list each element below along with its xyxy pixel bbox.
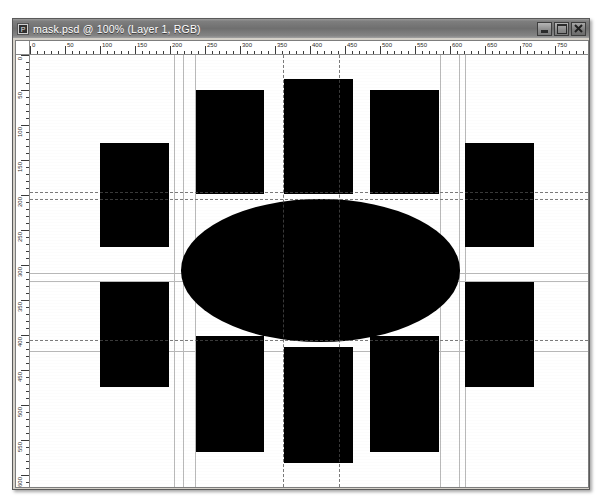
ruler-tick <box>26 419 29 420</box>
rect-left-upper[interactable] <box>100 143 169 248</box>
ruler-label-h: 550 <box>417 42 427 48</box>
ruler-tick <box>583 51 584 54</box>
minimize-icon <box>541 30 548 33</box>
ruler-tick <box>21 300 29 301</box>
ruler-label-h: 500 <box>382 42 392 48</box>
screenshot-root: P mask.psd @ 100% (Layer 1, RGB) <box>0 0 601 504</box>
svg-text:P: P <box>21 26 26 33</box>
ruler-tick <box>310 46 311 54</box>
ruler-tick <box>527 51 528 54</box>
ruler-tick <box>26 363 29 364</box>
rect-right-lower[interactable] <box>465 282 534 387</box>
rect-midleft-top[interactable] <box>196 90 265 195</box>
ruler-label-h: 400 <box>312 42 322 48</box>
ruler-tick <box>303 51 304 54</box>
ruler-tick <box>26 237 29 238</box>
ruler-tick <box>142 51 143 54</box>
ruler-tick <box>562 51 563 54</box>
ruler-label-h: 300 <box>242 42 252 48</box>
ruler-tick <box>170 46 171 54</box>
ruler-tick <box>26 307 29 308</box>
ruler-tick <box>26 293 29 294</box>
ruler-tick <box>21 335 29 336</box>
ruler-tick <box>26 153 29 154</box>
guide-v-8[interactable] <box>465 55 467 487</box>
maximize-button[interactable] <box>554 22 569 36</box>
ruler-label-h: 700 <box>522 42 532 48</box>
ruler-tick <box>26 216 29 217</box>
ruler-label-h: 150 <box>137 42 147 48</box>
ruler-tick <box>26 356 29 357</box>
ruler-tick <box>576 51 577 54</box>
ruler-tick <box>26 118 29 119</box>
minimize-button[interactable] <box>537 22 552 36</box>
rect-midright-bot[interactable] <box>370 336 439 453</box>
ruler-tick <box>359 51 360 54</box>
rect-right-upper[interactable] <box>465 143 534 248</box>
ruler-tick <box>499 51 500 54</box>
ruler-label-h: 100 <box>102 42 112 48</box>
ruler-tick <box>26 139 29 140</box>
ruler-tick <box>21 440 29 441</box>
ruler-tick <box>58 51 59 54</box>
rect-midleft-bot[interactable] <box>196 336 265 453</box>
close-button[interactable] <box>571 22 586 36</box>
guide-v-1[interactable] <box>174 55 176 487</box>
ruler-tick <box>21 160 29 161</box>
ruler-tick <box>26 244 29 245</box>
ruler-tick <box>26 468 29 469</box>
ruler-tick <box>478 51 479 54</box>
ruler-tick <box>21 230 29 231</box>
rect-left-lower[interactable] <box>100 282 169 387</box>
horizontal-ruler[interactable]: 0501001502002503003504004505005506006507… <box>30 41 588 55</box>
ruler-tick <box>338 51 339 54</box>
ruler-label-v: 50 <box>17 92 23 99</box>
ruler-tick <box>26 286 29 287</box>
ruler-tick <box>401 51 402 54</box>
ruler-tick <box>275 46 276 54</box>
canvas-viewport[interactable] <box>30 55 588 487</box>
ruler-tick <box>100 46 101 54</box>
rect-center-top[interactable] <box>284 79 353 194</box>
ruler-tick <box>555 46 556 54</box>
ruler-tick <box>156 51 157 54</box>
ruler-tick <box>26 377 29 378</box>
ruler-tick <box>26 181 29 182</box>
ruler-tick <box>26 202 29 203</box>
ruler-tick <box>149 51 150 54</box>
ruler-tick <box>184 51 185 54</box>
ruler-tick <box>26 328 29 329</box>
ruler-tick <box>373 51 374 54</box>
rect-center-bot[interactable] <box>284 347 353 464</box>
maximize-icon <box>557 24 567 34</box>
ruler-tick <box>26 426 29 427</box>
ruler-label-v: 350 <box>17 302 23 312</box>
image-canvas[interactable] <box>30 55 588 487</box>
ruler-tick <box>289 51 290 54</box>
ruler-tick <box>51 51 52 54</box>
ruler-tick <box>26 132 29 133</box>
photoshop-document-window[interactable]: P mask.psd @ 100% (Layer 1, RGB) <box>12 18 590 490</box>
rect-midright-top[interactable] <box>370 90 439 195</box>
ruler-tick <box>415 46 416 54</box>
ruler-tick <box>26 412 29 413</box>
ruler-tick <box>26 251 29 252</box>
ruler-tick <box>114 51 115 54</box>
ruler-tick <box>44 51 45 54</box>
ruler-tick <box>254 51 255 54</box>
ruler-tick <box>93 51 94 54</box>
ruler-tick <box>429 51 430 54</box>
ruler-tick <box>26 433 29 434</box>
ruler-tick <box>240 46 241 54</box>
center-ellipse[interactable] <box>181 199 460 342</box>
window-titlebar[interactable]: P mask.psd @ 100% (Layer 1, RGB) <box>13 19 589 38</box>
vertical-ruler[interactable]: 050100150200250300350400450500550600 <box>16 55 30 487</box>
ruler-tick <box>21 195 29 196</box>
ruler-tick <box>26 398 29 399</box>
ruler-tick <box>21 265 29 266</box>
ruler-tick <box>21 405 29 406</box>
ruler-tick <box>394 51 395 54</box>
ruler-tick <box>26 83 29 84</box>
ruler-tick <box>26 62 29 63</box>
ruler-origin-box[interactable] <box>16 41 30 55</box>
